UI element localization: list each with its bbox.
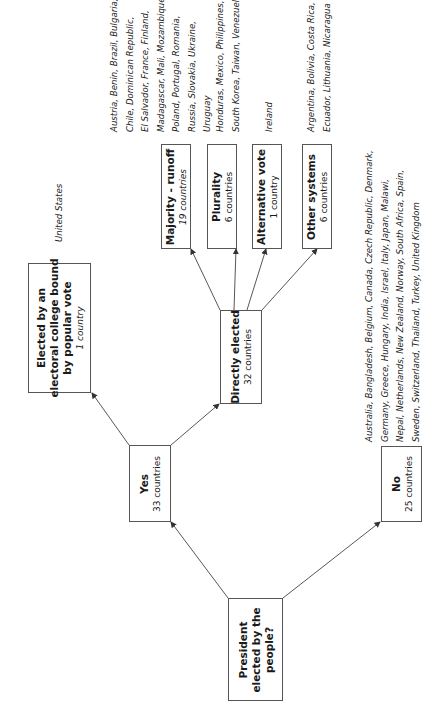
no-countries-line: Germany, Greece, Hungary, India, Israel,… xyxy=(378,150,394,442)
no-country-list: Australia, Bangladesh, Belgium, Canada, … xyxy=(362,150,424,442)
majority-runoff-count: 19 countries xyxy=(177,148,189,245)
other-systems-title: Other systems xyxy=(305,153,318,239)
majority-runoff-countries-line: Russia, Slovakia, Ukraine, xyxy=(185,0,201,132)
electoral-college-count: 1 country xyxy=(73,258,85,397)
electoral-college-box: Elected by an electoral college bound by… xyxy=(28,263,91,393)
root-question-label: President elected by the people? xyxy=(236,607,275,692)
majority-runoff-countries-line: Chile, Dominican Republic, xyxy=(123,0,139,132)
no-countries-line: Nepal, Netherlands, New Zealand, Norway,… xyxy=(393,150,409,442)
electoral-college-countries-line: United States xyxy=(52,184,68,242)
yes-count: 33 countries xyxy=(151,455,163,511)
alternative-vote-countries-line: Ireland xyxy=(262,102,278,132)
plurality-count: 6 countries xyxy=(223,171,235,221)
directly-elected-box: Directly elected 32 countries xyxy=(220,310,262,404)
plurality-countries-line: Honduras, Mexico, Philippines, xyxy=(213,0,229,132)
majority-runoff-countries-line: El Salvador, France, Finland, xyxy=(138,0,154,132)
majority-runoff-country-list: Austria, Benin, Brazil, Bulgaria, Chile,… xyxy=(107,0,216,132)
no-box: No 25 countries xyxy=(381,446,422,522)
majority-runoff-countries-line: Poland, Portugal, Romania, xyxy=(169,0,185,132)
electoral-college-line-3: by popular vote xyxy=(60,258,73,397)
other-systems-count: 6 countries xyxy=(318,153,330,239)
no-title: No xyxy=(389,456,402,512)
alternative-vote-box: Alternative vote 1 country xyxy=(252,144,282,249)
root-line-1: President xyxy=(236,607,249,692)
majority-runoff-countries-line: Austria, Benin, Brazil, Bulgaria, xyxy=(107,0,123,132)
majority-runoff-title: Majority - runoff xyxy=(164,148,177,245)
yes-box: Yes 33 countries xyxy=(129,445,171,522)
other-systems-box: Other systems 6 countries xyxy=(302,144,332,249)
root-question-box: President elected by the people? xyxy=(228,598,283,701)
yes-title: Yes xyxy=(138,455,151,511)
alternative-vote-count: 1 country xyxy=(268,148,280,244)
directly-elected-count: 32 countries xyxy=(242,310,254,404)
electoral-college-line-2: electoral college bound xyxy=(47,258,60,397)
directly-elected-title: Directly elected xyxy=(229,310,242,404)
root-line-2: elected by the xyxy=(249,607,262,692)
other-systems-countries-line: Ecuador, Lithuania, Nicaragua xyxy=(320,2,336,132)
plurality-title: Plurality xyxy=(210,171,223,221)
root-line-3: people? xyxy=(262,607,275,692)
electoral-college-country-list: United States xyxy=(52,184,68,242)
plurality-country-list: Honduras, Mexico, Philippines, South Kor… xyxy=(213,0,244,132)
no-countries-line: Australia, Bangladesh, Belgium, Canada, … xyxy=(362,150,378,442)
other-systems-country-list: Argentina, Bolivia, Costa Rica, Ecuador,… xyxy=(304,2,335,132)
plurality-box: Plurality 6 countries xyxy=(207,144,237,249)
no-count: 25 countries xyxy=(402,456,414,512)
majority-runoff-box: Majority - runoff 19 countries xyxy=(161,144,191,249)
other-systems-countries-line: Argentina, Bolivia, Costa Rica, xyxy=(304,2,320,132)
majority-runoff-countries-line: Madagascar, Mali, Mozambique, xyxy=(154,0,170,132)
plurality-countries-line: South Korea, Taiwan, Venezuela xyxy=(229,0,245,132)
electoral-college-line-1: Elected by an xyxy=(34,258,47,397)
no-countries-line: Sweden, Switzerland, Thailand, Turkey, U… xyxy=(409,150,425,442)
alternative-vote-country-list: Ireland xyxy=(262,102,278,132)
alternative-vote-title: Alternative vote xyxy=(255,148,268,244)
